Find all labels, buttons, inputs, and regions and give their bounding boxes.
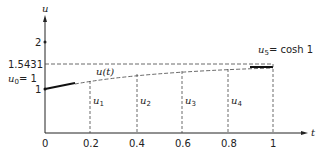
y-axis-label: u [42,3,48,14]
y-tick-label-2: 2 [35,37,41,48]
x-axis-arrow-icon [301,131,308,135]
curve-label: u(t) [96,66,114,77]
initial-point [44,88,47,91]
final-value-label: u5= cosh 1 [258,44,313,59]
reference-value-label: 1.5431 [8,59,43,70]
initial-rest: = 1 [19,73,37,84]
x-tick-label-0: 0 [42,138,48,149]
diagram: u t 2 1 1.5431 0 0.2 0.4 0.6 0.8 1 u0= 1… [0,0,320,150]
x-tick-label-0.4: 0.4 [129,138,145,149]
node-3-sub: 3 [191,100,195,108]
initial-value-label: u0= 1 [8,73,37,88]
node-label-2: u2 [140,95,151,110]
x-tick-label-0.6: 0.6 [175,138,191,149]
plot-canvas [0,0,320,150]
y-axis-arrow-icon [43,15,47,22]
x-axis-label: t [311,127,315,138]
node-label-1: u1 [93,95,104,110]
x-tick-label-1: 1 [270,138,276,149]
y-tick-2 [44,41,47,44]
final-rest: = cosh 1 [269,44,313,55]
node-4-sub: 4 [237,100,241,108]
node-1-sub: 1 [99,100,103,108]
x-tick-label-0.8: 0.8 [221,138,237,149]
x-tick-label-0.2: 0.2 [83,138,99,149]
node-label-4: u4 [231,95,242,110]
node-label-3: u3 [185,95,196,110]
node-2-sub: 2 [146,100,150,108]
initial-slope-segment [45,83,75,89]
